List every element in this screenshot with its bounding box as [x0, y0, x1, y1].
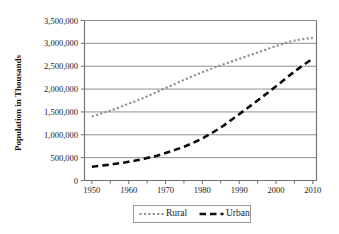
- x-axis-tick-label: 2010: [304, 185, 321, 195]
- x-axis-tick-label: 2000: [267, 185, 284, 195]
- x-axis-tick-label: 1990: [231, 185, 248, 195]
- y-axis-tick-label: 2,000,000: [44, 84, 78, 94]
- y-axis-tick-label: 3,000,000: [44, 38, 78, 48]
- legend-label-rural: Rural: [166, 208, 187, 218]
- x-axis-tick-label: 1950: [83, 185, 100, 195]
- y-axis-tick-label: 1,000,000: [44, 130, 78, 140]
- y-axis-tick-label: 1,500,000: [44, 107, 78, 117]
- y-axis-tick-label: 500,000: [50, 153, 78, 163]
- y-axis-tick-label: 0: [74, 176, 78, 186]
- chart-background: [0, 0, 339, 234]
- legend-label-urban: Urban: [226, 208, 250, 218]
- y-axis-tick-label: 2,500,000: [44, 61, 78, 71]
- x-axis-tick-label: 1970: [157, 185, 174, 195]
- y-axis-tick-label: 3,500,000: [44, 16, 78, 26]
- y-axis-title: Population in Thousands: [13, 55, 23, 151]
- x-axis-tick-label: 1980: [194, 185, 211, 195]
- chart-canvas: 0500,0001,000,0001,500,0002,000,0002,500…: [0, 0, 339, 234]
- x-axis-tick-label: 1960: [120, 185, 137, 195]
- population-line-chart: 0500,0001,000,0001,500,0002,000,0002,500…: [0, 0, 339, 234]
- chart-legend: RuralUrban: [134, 206, 251, 223]
